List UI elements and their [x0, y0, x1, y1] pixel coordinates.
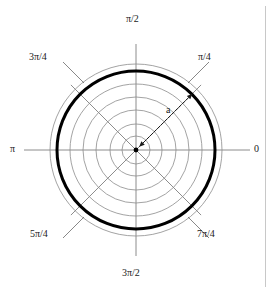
theta-label-0: 0: [254, 144, 259, 154]
theta-label-5pi-over-4: 5π/4: [30, 229, 48, 239]
theta-label-3pi-over-2: 3π/2: [122, 268, 140, 278]
leader-line-5pi-over-4: [63, 217, 84, 238]
origin-point-marker: [134, 148, 139, 153]
polar-plot-figure: [0, 0, 274, 293]
theta-label-pi-over-4: π/4: [198, 52, 211, 62]
theta-label-pi-over-2: π/2: [126, 14, 139, 24]
leader-line-pi-over-4: [188, 62, 209, 83]
figure-page: π/2 π/4 3π/4 π 0 5π/4 7π/4 3π/2 a: [0, 0, 274, 293]
theta-label-pi: π: [10, 144, 15, 154]
theta-label-3pi-over-4: 3π/4: [29, 52, 47, 62]
leader-line-3pi-over-4: [63, 62, 84, 83]
theta-label-7pi-over-4: 7π/4: [197, 229, 215, 239]
radius-annotation-label: a: [166, 105, 170, 115]
